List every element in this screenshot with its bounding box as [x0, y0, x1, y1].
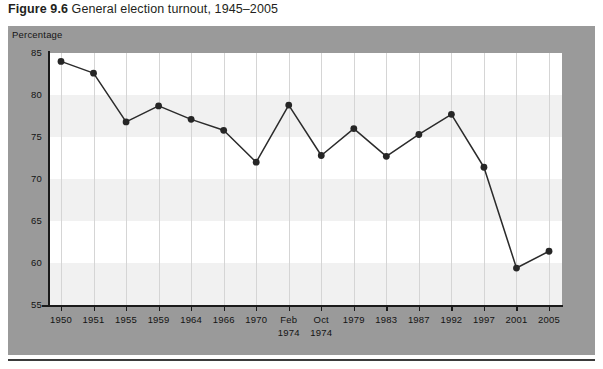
- x-axis-tick: [451, 305, 452, 311]
- gridline: [289, 53, 290, 305]
- gridline: [354, 53, 355, 305]
- x-axis-tick-label-line2: 1974: [291, 326, 351, 339]
- x-axis-tick: [386, 305, 387, 311]
- gridline: [321, 53, 322, 305]
- y-axis-tick-label: 85: [16, 47, 42, 58]
- plot-area: [48, 53, 562, 305]
- y-axis-line: [48, 51, 50, 307]
- gridline: [386, 53, 387, 305]
- x-axis-tick: [159, 305, 160, 311]
- gridline: [419, 53, 420, 305]
- figure-container: Figure 9.6 General election turnout, 194…: [0, 0, 603, 369]
- x-axis-tick-label: 2005: [519, 313, 579, 326]
- x-axis-tick: [224, 305, 225, 311]
- y-axis-tick-label: 65: [16, 215, 42, 226]
- x-axis-tick: [484, 305, 485, 311]
- gridline: [159, 53, 160, 305]
- gridline: [94, 53, 95, 305]
- gridline: [224, 53, 225, 305]
- gridline: [451, 53, 452, 305]
- y-axis-tick-label: 60: [16, 257, 42, 268]
- x-axis-tick: [191, 305, 192, 311]
- gridline: [126, 53, 127, 305]
- panel-bottom-rule: [8, 359, 595, 361]
- y-axis-tick-label: 75: [16, 131, 42, 142]
- y-axis-tick-label: 55: [16, 299, 42, 310]
- x-axis-tick: [419, 305, 420, 311]
- figure-title-text: General election turnout, 1945–2005: [68, 2, 278, 16]
- x-axis-tick: [94, 305, 95, 311]
- figure-title: Figure 9.6 General election turnout, 194…: [8, 2, 568, 24]
- y-axis-tick-label: 70: [16, 173, 42, 184]
- gridline: [191, 53, 192, 305]
- y-axis-tick-label: 80: [16, 89, 42, 100]
- x-axis-tick: [126, 305, 127, 311]
- x-axis-tick: [289, 305, 290, 311]
- gridline: [61, 53, 62, 305]
- x-axis-tick: [516, 305, 517, 311]
- gridline: [549, 53, 550, 305]
- x-axis-tick: [354, 305, 355, 311]
- x-axis-tick: [321, 305, 322, 311]
- gridline: [484, 53, 485, 305]
- gridline: [516, 53, 517, 305]
- x-axis-tick: [256, 305, 257, 311]
- gridline: [256, 53, 257, 305]
- x-axis-tick: [61, 305, 62, 311]
- x-axis-tick: [549, 305, 550, 311]
